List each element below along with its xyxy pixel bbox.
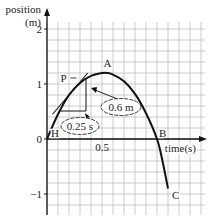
point-label-c: C (172, 189, 179, 201)
rise-arrow-head-icon (91, 87, 97, 93)
point-label-a: A (104, 57, 112, 69)
rise-cloud-label: 0.6 m (108, 101, 134, 113)
point-label-b: B (159, 127, 166, 139)
y-axis-arrow-icon (44, 8, 50, 16)
y-tick-label: 0 (37, 133, 43, 145)
annotation-clouds: 0.25 s0.6 m (61, 99, 141, 135)
point-label-p: P (61, 72, 67, 84)
rise-cloud: 0.6 m (101, 99, 141, 116)
point-label-h: H (51, 127, 59, 139)
y-tick-label: −1 (30, 188, 42, 200)
run-cloud: 0.25 s (61, 118, 99, 135)
x-axis-title: time(s) (165, 142, 196, 155)
x-axis-arrow-icon (199, 136, 207, 142)
y-tick-label: 1 (37, 78, 43, 90)
y-tick-label: 2 (37, 23, 43, 35)
y-axis-title: position (6, 3, 42, 15)
run-cloud-label: 0.25 s (67, 120, 93, 132)
x-tick-label: 0.5 (95, 141, 109, 153)
position-time-graph: 0.25 s0.6 m position(m)210−10.5time(s) H… (0, 0, 211, 222)
